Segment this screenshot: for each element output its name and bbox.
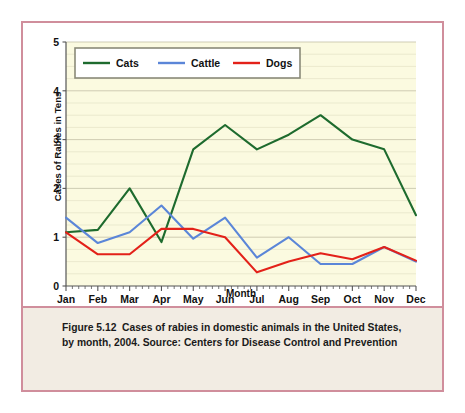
figure-caption: Figure 5.12 Cases of rabies in domestic … bbox=[62, 321, 407, 350]
y-axis-label: Cases of Rabies in Tens bbox=[52, 67, 63, 227]
chart-panel: 012345 JanFebMarAprMayJunJulAugSepOctNov… bbox=[23, 23, 442, 308]
caption-panel: Figure 5.12 Cases of rabies in domestic … bbox=[23, 308, 442, 390]
legend-label-cats: Cats bbox=[116, 57, 139, 69]
legend-label-dogs: Dogs bbox=[266, 57, 292, 69]
legend-label-cattle: Cattle bbox=[191, 57, 220, 69]
rabies-line-chart: 012345 JanFebMarAprMayJunJulAugSepOctNov… bbox=[23, 23, 442, 308]
figure-number: Figure 5.12 bbox=[62, 322, 116, 333]
y-tick-label: 0 bbox=[53, 280, 59, 292]
y-tick-label: 5 bbox=[53, 36, 59, 48]
x-axis-label: Month bbox=[66, 288, 416, 299]
chart-legend: CatsCattleDogs bbox=[75, 48, 300, 78]
figure-frame: 012345 JanFebMarAprMayJunJulAugSepOctNov… bbox=[21, 21, 444, 392]
y-tick-label: 1 bbox=[53, 231, 59, 243]
